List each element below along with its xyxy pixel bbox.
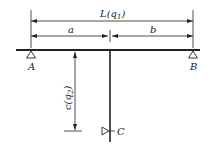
label-b: b bbox=[150, 24, 156, 35]
support-A-icon bbox=[27, 51, 36, 58]
dimension-L: L(q1) bbox=[31, 8, 193, 21]
dimension-b: b bbox=[112, 24, 193, 36]
label-L: L(q1) bbox=[99, 8, 125, 21]
dimension-a: a bbox=[31, 24, 108, 36]
beam-diagram: L(q1) a b A B c(q2) C bbox=[0, 0, 212, 153]
label-C: C bbox=[117, 126, 125, 137]
support-C-icon bbox=[102, 127, 115, 135]
support-B-icon bbox=[189, 51, 198, 58]
label-B: B bbox=[189, 61, 197, 72]
label-c: c(q2) bbox=[62, 86, 75, 110]
dimension-c: c(q2) bbox=[62, 52, 82, 131]
label-A: A bbox=[27, 61, 35, 72]
label-a: a bbox=[68, 24, 74, 35]
